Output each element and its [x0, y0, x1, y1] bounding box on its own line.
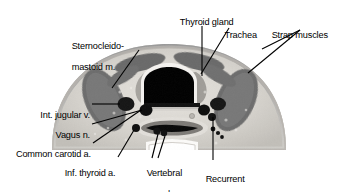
label-vertebral-vein-and-artery: Vertebral v. and a. [137, 157, 182, 192]
anatomy-figure: Thyroid gland Trachea Strap muscles Ster… [0, 0, 338, 192]
label-inferior-thyroid-artery: Inf. thyroid a. [55, 157, 116, 189]
label-trachea: Trachea [208, 19, 264, 51]
label-strap-muscles: Strap muscles [262, 19, 328, 51]
label-sternocleidomastoid-muscle: Sternocleido- mastoid m. [62, 30, 124, 83]
label-recurrent-laryngeal-nerve: Recurrent laryngeal n. [196, 163, 251, 192]
